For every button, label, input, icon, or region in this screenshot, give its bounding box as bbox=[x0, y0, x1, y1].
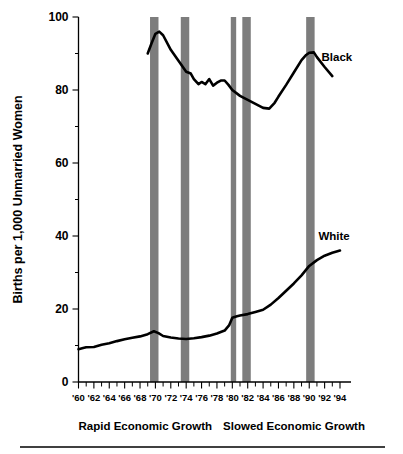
shaded-band-recession-1970 bbox=[150, 17, 158, 382]
y-tick-label-80: 80 bbox=[55, 83, 69, 97]
y-tick-label-20: 20 bbox=[55, 302, 69, 316]
annotations-group: Rapid Economic GrowthSlowed Economic Gro… bbox=[79, 420, 365, 432]
series-label-white: White bbox=[318, 230, 349, 242]
shaded-band-recession-1980 bbox=[231, 17, 236, 382]
series-line-white bbox=[79, 251, 341, 350]
y-tick-label-60: 60 bbox=[55, 156, 69, 170]
x-tick-label-78: '78 bbox=[211, 392, 224, 403]
x-tick-label-92: '92 bbox=[318, 392, 331, 403]
x-tick-label-66: '66 bbox=[118, 392, 131, 403]
x-tick-label-72: '72 bbox=[164, 392, 177, 403]
x-tick-label-80: '80 bbox=[226, 392, 239, 403]
y-tick-label-40: 40 bbox=[55, 229, 69, 243]
data-series-group bbox=[79, 32, 341, 350]
y-axis-title: Births per 1,000 Unmarried Women bbox=[11, 95, 25, 303]
chart-figure: 020406080100 '60'62'64'66'68'70'72'74'76… bbox=[0, 0, 403, 454]
x-tick-label-90: '90 bbox=[303, 392, 316, 403]
x-tick-label-68: '68 bbox=[134, 392, 147, 403]
rapid-growth-note: Rapid Economic Growth bbox=[79, 420, 213, 432]
recession-bands-group bbox=[150, 17, 315, 382]
x-axis-ticks-group: '60'62'64'66'68'70'72'74'76'78'80'82'84'… bbox=[72, 382, 347, 403]
x-tick-label-62: '62 bbox=[87, 392, 100, 403]
series-labels-group: BlackWhite bbox=[318, 51, 352, 242]
shaded-band-recession-1990 bbox=[306, 17, 314, 382]
slowed-growth-note: Slowed Economic Growth bbox=[223, 420, 365, 432]
shaded-band-recession-1982 bbox=[242, 17, 250, 382]
y-tick-label-0: 0 bbox=[62, 375, 69, 389]
y-axis-ticks-group: 020406080100 bbox=[48, 10, 78, 389]
x-tick-label-64: '64 bbox=[103, 392, 117, 403]
x-tick-label-74: '74 bbox=[180, 392, 194, 403]
line-chart-svg: 020406080100 '60'62'64'66'68'70'72'74'76… bbox=[0, 0, 403, 454]
x-tick-label-76: '76 bbox=[195, 392, 208, 403]
y-axis-title-group: Births per 1,000 Unmarried Women bbox=[11, 95, 25, 303]
x-tick-label-82: '82 bbox=[241, 392, 254, 403]
x-tick-label-88: '88 bbox=[287, 392, 300, 403]
x-tick-label-94: '94 bbox=[334, 392, 348, 403]
series-line-black bbox=[148, 32, 333, 109]
x-tick-label-70: '70 bbox=[149, 392, 162, 403]
x-tick-label-60: '60 bbox=[72, 392, 85, 403]
x-tick-label-84: '84 bbox=[257, 392, 271, 403]
y-tick-label-100: 100 bbox=[48, 10, 68, 24]
series-label-black: Black bbox=[322, 51, 353, 63]
x-tick-label-86: '86 bbox=[272, 392, 285, 403]
